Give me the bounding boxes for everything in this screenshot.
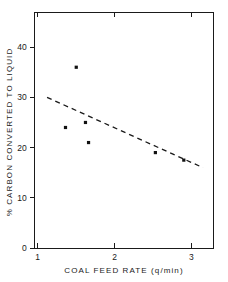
y-tick-label-20: 20 [17,143,27,153]
trend-line-group [47,97,203,167]
y-axis-tick-labels: 010203040 [17,42,27,253]
y-axis-ticks [30,47,34,248]
y-tick-label-30: 30 [17,92,27,102]
x-tick-label-1: 1 [35,252,40,262]
x-axis-ticks [38,12,192,248]
x-axis-title: COAL FEED RATE (q/min) [64,266,183,275]
trend-line [47,97,203,167]
y-tick-label-40: 40 [17,42,27,52]
data-point-0 [75,66,78,69]
data-point-2 [84,121,87,124]
x-tick-label-2: 2 [112,252,117,262]
x-axis-tick-labels: 123 [35,252,194,262]
data-point-1 [64,126,67,129]
figure-container: 010203040 123 COAL FEED RATE (q/min) % C… [0,0,228,282]
scatter-plot: 010203040 123 COAL FEED RATE (q/min) % C… [0,0,228,282]
plot-frame [34,12,213,248]
x-tick-label-3: 3 [189,252,194,262]
data-point-5 [182,159,185,162]
y-tick-label-0: 0 [22,243,27,253]
data-point-3 [87,141,90,144]
y-tick-label-10: 10 [17,193,27,203]
axis-frame [34,12,213,248]
y-axis-title: % CARBON CONVERTED TO LIQUID [5,48,14,217]
data-point-4 [154,151,157,154]
